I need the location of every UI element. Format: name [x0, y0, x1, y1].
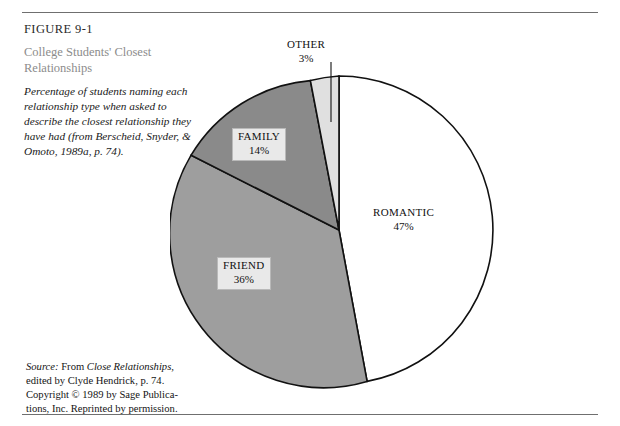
slice-label-romantic-value: 47%: [373, 220, 434, 234]
slice-label-friend: FRIEND 36%: [217, 257, 271, 290]
slice-label-other-name: OTHER: [287, 38, 325, 52]
source-label: Source:: [26, 361, 59, 372]
slice-label-friend-name: FRIEND: [223, 259, 265, 273]
slice-label-family: FAMILY 14%: [232, 128, 286, 161]
source-line-2: edited by Clyde Hendrick, p. 74.: [26, 375, 164, 386]
slice-label-other: OTHER 3%: [287, 38, 325, 66]
source-from: From: [59, 361, 87, 372]
top-rule: [22, 12, 598, 13]
slice-label-romantic-name: ROMANTIC: [373, 206, 434, 220]
slice-label-family-value: 14%: [238, 144, 280, 158]
source-line-3: Copyright © 1989 by Sage Publica-: [26, 389, 178, 400]
source-line-4: tions, Inc. Reprinted by permission.: [26, 403, 178, 414]
pie-chart-svg: [170, 26, 515, 398]
slice-label-family-name: FAMILY: [238, 130, 280, 144]
slice-label-romantic: ROMANTIC 47%: [373, 206, 434, 234]
slice-label-other-value: 3%: [287, 52, 325, 66]
slice-label-friend-value: 36%: [223, 273, 265, 287]
source-work-title: Close Relationships,: [87, 361, 174, 372]
figure-page: FIGURE 9-1 College Students' Closest Rel…: [0, 0, 620, 426]
pie-chart: OTHER 3% ROMANTIC 47% FAMILY 14% FRIEND …: [170, 26, 515, 398]
